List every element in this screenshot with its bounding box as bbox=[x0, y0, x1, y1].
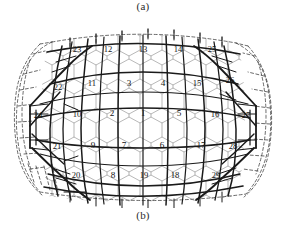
face-label-24: 24 bbox=[34, 110, 43, 120]
panel-b-diagram: 1234567891011121314151617181920212223242… bbox=[0, 14, 286, 208]
figure-root: (a) bbox=[0, 0, 286, 227]
face-label-27: 27 bbox=[242, 110, 251, 120]
face-label-9: 9 bbox=[91, 140, 96, 150]
face-label-23: 23 bbox=[73, 44, 82, 54]
face-label-18: 18 bbox=[171, 170, 180, 180]
face-label-6: 6 bbox=[160, 140, 165, 150]
face-label-12: 12 bbox=[104, 44, 113, 54]
face-label-11: 11 bbox=[88, 78, 96, 88]
face-label-22: 22 bbox=[54, 82, 63, 92]
face-label-5: 5 bbox=[177, 108, 182, 118]
face-label-21: 21 bbox=[53, 141, 62, 151]
face-label-29: 29 bbox=[212, 170, 221, 180]
face-label-16: 16 bbox=[211, 109, 220, 119]
face-label-7: 7 bbox=[122, 140, 127, 150]
face-label-10: 10 bbox=[73, 109, 82, 119]
face-label-28: 28 bbox=[229, 141, 238, 151]
face-label-3: 3 bbox=[127, 78, 132, 88]
face-label-25: 25 bbox=[208, 44, 217, 54]
face-label-4: 4 bbox=[161, 78, 166, 88]
face-label-2: 2 bbox=[110, 108, 115, 118]
face-label-20: 20 bbox=[72, 170, 81, 180]
face-label-13: 13 bbox=[139, 44, 148, 54]
caption-a: (a) bbox=[0, 0, 286, 12]
face-label-19: 19 bbox=[140, 170, 149, 180]
lattice-svg: 1234567891011121314151617181920212223242… bbox=[0, 14, 286, 208]
face-label-26: 26 bbox=[226, 75, 235, 85]
face-label-8: 8 bbox=[111, 170, 116, 180]
face-label-17: 17 bbox=[197, 140, 206, 150]
face-label-14: 14 bbox=[174, 44, 183, 54]
face-label-15: 15 bbox=[193, 78, 202, 88]
caption-b: (b) bbox=[0, 209, 286, 221]
face-label-1: 1 bbox=[141, 108, 146, 118]
